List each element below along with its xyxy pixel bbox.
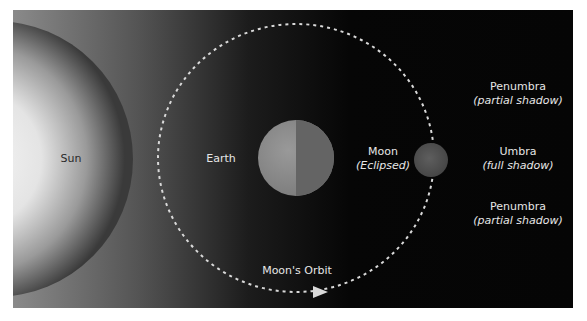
- moon-label: Moon (Eclipsed): [356, 145, 410, 173]
- eclipse-diagram: Sun Earth Moon (Eclipsed) Penumbra (part…: [13, 10, 573, 308]
- penumbra-top-label: Penumbra (partial shadow): [473, 80, 563, 108]
- moon: [414, 143, 448, 177]
- orbit-arrow-icon: [313, 286, 328, 298]
- umbra-label: Umbra (full shadow): [482, 145, 553, 173]
- earth-label: Earth: [206, 152, 236, 166]
- orbit-label: Moon's Orbit: [262, 264, 332, 278]
- sun-label: Sun: [61, 152, 82, 166]
- penumbra-bottom-label: Penumbra (partial shadow): [473, 200, 563, 228]
